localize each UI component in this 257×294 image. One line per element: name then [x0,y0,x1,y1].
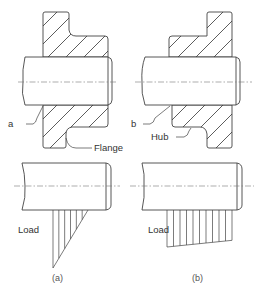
load-diagram-b [167,210,232,247]
panel-a-load: Load (a) [14,163,120,283]
load-shaft-b [142,163,242,210]
flange-top-section [12,12,147,57]
shaft-b [142,57,240,105]
panel-b-assembly: b Hub [131,12,257,150]
leader-hub [176,128,191,137]
leader-b [143,106,170,124]
load-diagram-a [53,210,88,268]
leader-a [26,106,43,124]
diagram-canvas: a Flange [0,0,257,294]
panel-a-assembly: a Flange [8,12,147,153]
load-label-b: Load [148,224,169,235]
flange-label: Flange [94,142,123,153]
point-label-a: a [8,118,14,129]
shaft-a [22,57,112,105]
hub-label: Hub [151,131,168,142]
hub-top-section [142,12,257,57]
point-label-b: b [131,118,136,129]
load-label-a: Load [18,224,39,235]
leader-flange [66,138,92,148]
caption-a: (a) [52,273,63,283]
hub-bottom-section [142,105,257,150]
caption-b: (b) [192,273,203,283]
panel-b-load: Load (b) [130,163,254,283]
load-shaft-a [22,163,111,210]
